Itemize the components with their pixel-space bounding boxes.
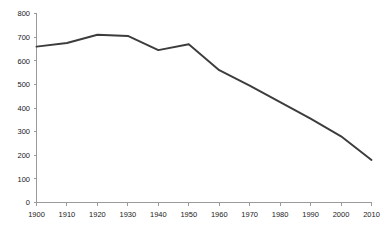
x-axis-tick-label: 1900 [28,210,45,219]
y-axis-tick-label: 0 [26,198,30,207]
y-axis-tick-label: 400 [17,104,30,113]
x-axis-tick-label: 2010 [363,210,380,219]
chart-canvas: 0100200300400500600700800 19001910192019… [0,0,383,232]
y-axis-tick-labels: 0100200300400500600700800 [17,9,30,207]
data-series-group [37,35,372,160]
x-axis-tick-labels: 1900191019201930194019501960197019801990… [28,210,380,219]
x-axis-tick-label: 1930 [120,210,137,219]
y-axis-tick-label: 800 [17,9,30,18]
y-axis-tick-label: 200 [17,151,30,160]
x-axis-tick-label: 1980 [272,210,289,219]
x-axis-tick-label: 1990 [302,210,319,219]
line-chart: 0100200300400500600700800 19001910192019… [0,0,383,232]
x-axis-tick-label: 2000 [333,210,350,219]
x-axis-tick-label: 1960 [211,210,228,219]
series-line-series-1 [37,35,372,160]
y-axis-tick-label: 100 [17,175,30,184]
x-axis-tick-label: 1940 [150,210,167,219]
y-axis-tick-label: 700 [17,33,30,42]
x-axis-tick-label: 1970 [241,210,258,219]
y-axis-tick-label: 600 [17,57,30,66]
x-axis-tick-label: 1910 [59,210,76,219]
y-axis-tick-label: 500 [17,80,30,89]
x-axis-tick-label: 1950 [180,210,197,219]
x-axis-tick-marks [37,203,372,207]
x-axis-tick-label: 1920 [89,210,106,219]
y-axis-tick-label: 300 [17,127,30,136]
